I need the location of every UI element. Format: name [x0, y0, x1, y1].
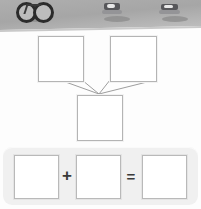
equation-operand-1[interactable]: [14, 155, 59, 199]
vehicle-window-icon: [164, 5, 173, 8]
thumbnail-vehicle-3[interactable]: [156, 0, 194, 24]
diagram-box-b[interactable]: [110, 36, 157, 82]
diagram-box-result[interactable]: [77, 95, 123, 141]
diagram-box-a[interactable]: [38, 36, 84, 82]
vehicle-window-icon: [107, 4, 115, 8]
thumbnail-vehicle-2[interactable]: [98, 0, 136, 24]
vehicle-base-icon: [102, 10, 122, 14]
addition-equation-panel: + =: [3, 147, 198, 205]
thumbnail-shadow: [162, 16, 188, 22]
equation-operand-2[interactable]: [76, 155, 121, 199]
combination-diagram: [0, 34, 201, 142]
equation-result[interactable]: [142, 155, 187, 199]
thumbnail-bicycle[interactable]: [12, 0, 60, 24]
plus-icon: +: [58, 167, 76, 184]
thumbnail-shadow: [104, 16, 130, 22]
vehicle-base-icon: [159, 10, 180, 14]
equals-icon: =: [122, 168, 140, 185]
thumbnail-strip: [0, 0, 201, 34]
